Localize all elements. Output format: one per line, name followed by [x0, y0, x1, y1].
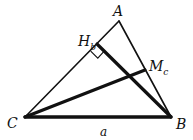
label-side-a: a — [100, 125, 107, 139]
label-B: B — [175, 116, 186, 132]
side-CA — [25, 21, 119, 117]
median-CMc — [25, 70, 145, 117]
diagram-svg: A C B Hb Mc a — [0, 0, 193, 140]
triangle-diagram: A C B Hb Mc a — [0, 0, 193, 140]
label-Mc: Mc — [148, 58, 168, 77]
label-Hb: Hb — [77, 33, 96, 52]
altitude-BHb — [97, 44, 171, 117]
label-A: A — [111, 3, 123, 19]
label-C: C — [7, 115, 18, 131]
right-angle-marker — [91, 51, 105, 58]
